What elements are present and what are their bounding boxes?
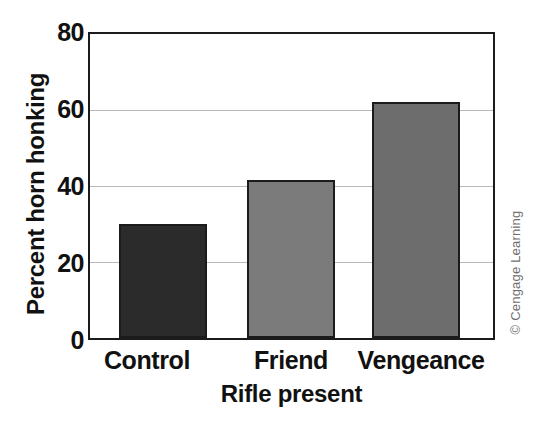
x-tick-label-vengeance: Vengeance [351, 348, 491, 373]
x-axis-title: Rifle present [88, 380, 495, 408]
x-tick-label-friend: Friend [236, 348, 346, 373]
chart-figure: 80 60 40 20 0 Control Friend Vengeance P… [0, 0, 534, 429]
bar-friend [247, 180, 335, 338]
bar-control [119, 224, 207, 338]
copyright-credit: © Cengage Learning [508, 188, 523, 358]
y-axis-title: Percent horn honking [22, 85, 50, 315]
y-tick-label-80: 80 [40, 20, 84, 45]
x-tick-label-control: Control [92, 348, 202, 373]
y-tick-label-0: 0 [40, 328, 84, 353]
bar-vengeance [372, 102, 460, 338]
plot-area [88, 32, 495, 340]
